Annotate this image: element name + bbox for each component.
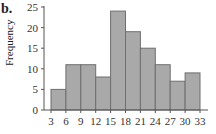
histogram-bar [111,11,126,110]
histogram-bar [155,65,170,110]
x-tick-label: 18 [120,115,132,127]
y-tick-label: 5 [33,83,39,95]
y-tick-label: 0 [33,104,39,116]
x-tick-label: 33 [195,115,207,127]
x-tick-label: 12 [90,115,101,127]
y-tick-label: 10 [27,63,39,75]
x-tick-label: 27 [165,115,177,127]
histogram-bar [126,32,141,110]
histogram-bar [185,73,200,110]
histogram-bar [51,89,66,110]
y-tick-label: 25 [27,1,39,13]
histogram-chart: 05101520253691215182124273033 [0,0,216,134]
x-tick-label: 6 [63,115,69,127]
x-tick-label: 30 [180,115,192,127]
x-tick-label: 24 [150,115,162,127]
histogram-bar [140,48,155,110]
x-tick-label: 9 [78,115,84,127]
histogram-bar [96,77,111,110]
x-tick-label: 3 [48,115,54,127]
histogram-bar [66,65,81,110]
x-tick-label: 21 [135,115,146,127]
y-tick-label: 20 [27,22,39,34]
x-tick-label: 15 [105,115,117,127]
histogram-bar [81,65,96,110]
histogram-bar [170,81,185,110]
y-tick-label: 15 [27,42,39,54]
